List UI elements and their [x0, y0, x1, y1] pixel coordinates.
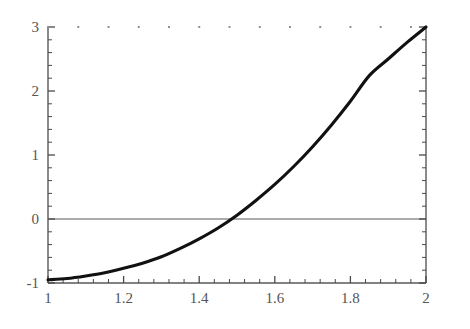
top-edge-tick-dot: [289, 26, 291, 28]
x-axis-tick-label: 1.2: [114, 290, 133, 306]
top-edge-tick-dot: [259, 26, 261, 28]
y-axis-tick-label: -1: [27, 275, 40, 291]
top-edge-tick-dot: [138, 26, 140, 28]
x-axis-tick-label: 1.4: [190, 290, 209, 306]
top-edge-tick-dot: [380, 26, 382, 28]
top-edge-tick-dot: [410, 26, 412, 28]
top-edge-tick-dot: [108, 26, 110, 28]
top-edge-tick-dot: [319, 26, 321, 28]
x-axis-tick-label: 2: [422, 290, 430, 306]
x-axis-tick-label: 1.6: [265, 290, 284, 306]
y-axis-tick-label: 0: [32, 211, 40, 227]
x-axis-tick-labels-group: 11.21.41.61.82: [44, 290, 430, 306]
data-curve: [48, 27, 426, 280]
y-axis-tick-label: 2: [32, 83, 40, 99]
plot-figure: 11.21.41.61.82 -10123: [0, 0, 470, 329]
top-edge-tick-dot: [350, 26, 352, 28]
y-axis-tick-labels-group: -10123: [27, 19, 40, 291]
y-axis-tick-label: 3: [32, 19, 40, 35]
x-axis-tick-label: 1: [44, 290, 52, 306]
top-edge-dots-group: [47, 26, 412, 28]
y-axis-ticks-group: [48, 27, 426, 283]
top-edge-tick-dot: [47, 26, 49, 28]
x-axis-ticks-group: [48, 276, 426, 283]
axis-frame-group: [48, 27, 426, 283]
chart-canvas: 11.21.41.61.82 -10123: [0, 0, 470, 329]
top-edge-tick-dot: [77, 26, 79, 28]
data-curve-group: [48, 27, 426, 280]
top-edge-tick-dot: [229, 26, 231, 28]
top-edge-tick-dot: [198, 26, 200, 28]
y-axis-tick-label: 1: [32, 147, 40, 163]
x-axis-tick-label: 1.8: [341, 290, 360, 306]
top-edge-tick-dot: [168, 26, 170, 28]
